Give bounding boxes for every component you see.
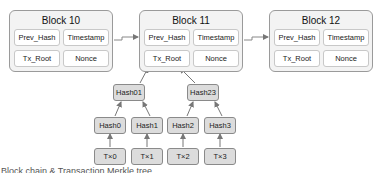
- timestamp-field: Timestamp: [63, 29, 109, 46]
- figure-caption: Block chain & Transaction Merkle tree: [1, 166, 152, 173]
- block-title: Block 11: [140, 15, 242, 26]
- tx-root-field: Tx_Root: [274, 50, 320, 67]
- hash1-node: Hash1: [131, 117, 163, 134]
- prev-hash-field: Prev_Hash: [14, 29, 60, 46]
- tx2-node: T×2: [167, 148, 199, 165]
- nonce-field: Nonce: [193, 50, 239, 67]
- tx-root-field: Tx_Root: [144, 50, 190, 67]
- nonce-field: Nonce: [63, 50, 109, 67]
- prev-hash-field: Prev_Hash: [144, 29, 190, 46]
- prev-hash-field: Prev_Hash: [274, 29, 320, 46]
- hash3-node: Hash3: [204, 117, 236, 134]
- block-11: Block 11 Prev_Hash Timestamp Tx_Root Non…: [139, 10, 243, 72]
- block-title: Block 12: [270, 15, 372, 26]
- block-title: Block 10: [10, 15, 112, 26]
- nonce-field: Nonce: [323, 50, 369, 67]
- hash2-node: Hash2: [167, 117, 199, 134]
- hash01-node: Hash01: [113, 84, 145, 101]
- tx1-node: T×1: [131, 148, 163, 165]
- timestamp-field: Timestamp: [193, 29, 239, 46]
- block-12: Block 12 Prev_Hash Timestamp Tx_Root Non…: [269, 10, 373, 72]
- tx3-node: T×3: [204, 148, 236, 165]
- tx-root-field: Tx_Root: [14, 50, 60, 67]
- hash23-node: Hash23: [187, 84, 219, 101]
- hash0-node: Hash0: [94, 117, 126, 134]
- block-10: Block 10 Prev_Hash Timestamp Tx_Root Non…: [9, 10, 113, 72]
- timestamp-field: Timestamp: [323, 29, 369, 46]
- tx0-node: T×0: [94, 148, 126, 165]
